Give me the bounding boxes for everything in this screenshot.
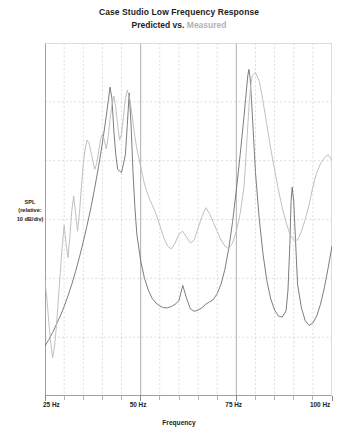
x-axis-tick: [217, 396, 218, 400]
x-axis-tick: [159, 396, 160, 400]
x-axis-tick: [274, 396, 275, 400]
series-line-measured: [45, 72, 332, 357]
x-axis-tick: [64, 396, 65, 400]
frequency-response-plot: [45, 43, 332, 396]
plot-area: [45, 43, 332, 396]
x-tick-label-100: 100 Hz: [310, 401, 330, 408]
title-block: Case Studio Low Frequency Response Predi…: [0, 6, 358, 31]
page-title: Case Studio Low Frequency Response: [0, 6, 358, 18]
chart-subtitle: Predicted vs. Measured: [0, 19, 358, 31]
x-axis-tick: [332, 396, 333, 401]
series-line-predicted: [45, 69, 332, 346]
x-axis-tick: [83, 396, 84, 400]
subtitle-predicted-label: Predicted vs.: [132, 20, 185, 30]
x-axis-tick: [179, 396, 180, 400]
subtitle-measured-label: Measured: [187, 20, 227, 30]
x-axis-tick: [312, 396, 313, 400]
x-axis-tick: [102, 396, 103, 400]
x-tick-label-50: 50 Hz: [130, 401, 147, 408]
x-axis-tick: [255, 396, 256, 400]
x-axis-tick: [293, 396, 294, 400]
x-tick-label-75: 75 Hz: [225, 401, 242, 408]
series-lines: [45, 69, 332, 357]
x-axis-tick: [121, 396, 122, 400]
chart-page: Case Studio Low Frequency Response Predi…: [0, 0, 358, 448]
x-axis-tick: [198, 396, 199, 400]
x-tick-label-25: 25 Hz: [43, 401, 60, 408]
x-axis-title: Frequency: [0, 419, 358, 426]
